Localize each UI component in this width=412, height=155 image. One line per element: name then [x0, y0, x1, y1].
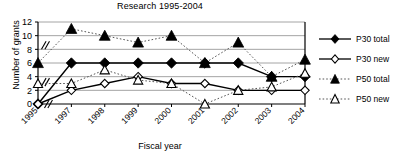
legend-sample-p50-total — [318, 72, 352, 86]
legend-item[interactable]: P30 total — [318, 29, 412, 49]
svg-text:1998: 1998 — [86, 105, 107, 126]
svg-text:4: 4 — [27, 72, 32, 82]
legend-label-p30-new: P30 new — [352, 55, 389, 64]
svg-text:2004: 2004 — [286, 105, 307, 126]
svg-text:2003: 2003 — [253, 105, 274, 126]
data-point — [233, 37, 244, 47]
data-point — [33, 79, 42, 88]
data-point — [66, 23, 77, 33]
legend-item[interactable]: P30 new — [318, 49, 412, 69]
data-point — [301, 86, 309, 94]
svg-text:6: 6 — [27, 58, 32, 68]
data-point — [233, 58, 243, 68]
data-point — [100, 65, 109, 74]
legend-label-p50-total: P50 total — [352, 75, 390, 84]
x-tick-labels: 199519971998199920002001200220032004 — [19, 105, 307, 126]
data-series-layer — [33, 23, 311, 109]
data-point — [101, 79, 109, 87]
svg-text:1999: 1999 — [119, 105, 140, 126]
svg-text:12: 12 — [22, 17, 32, 27]
svg-text:2002: 2002 — [219, 105, 240, 126]
data-point — [300, 54, 311, 64]
legend-item[interactable]: P50 new — [318, 89, 412, 109]
svg-text:8: 8 — [27, 45, 32, 55]
legend-sample-p50-new — [318, 92, 352, 106]
data-point — [133, 58, 143, 68]
legend-sample-p30-new — [318, 52, 352, 66]
svg-text:10: 10 — [22, 31, 32, 41]
svg-text:2: 2 — [27, 86, 32, 96]
data-point — [166, 58, 176, 68]
data-point — [267, 82, 276, 91]
legend-label-p30-total: P30 total — [352, 35, 390, 44]
chart-figure: Research 1995-2004 Number of grants Fisc… — [0, 0, 412, 155]
svg-text:1997: 1997 — [52, 105, 73, 126]
chart-legend: P30 total P30 new P50 total P50 new — [318, 29, 412, 109]
legend-sample-p30-total — [318, 32, 352, 46]
legend-item[interactable]: P50 total — [318, 69, 412, 89]
data-point — [201, 79, 209, 87]
svg-text:2000: 2000 — [152, 105, 173, 126]
y-tick-labels: 024681012 — [22, 17, 32, 109]
data-point — [300, 69, 309, 78]
legend-label-p50-new: P50 new — [352, 95, 389, 104]
